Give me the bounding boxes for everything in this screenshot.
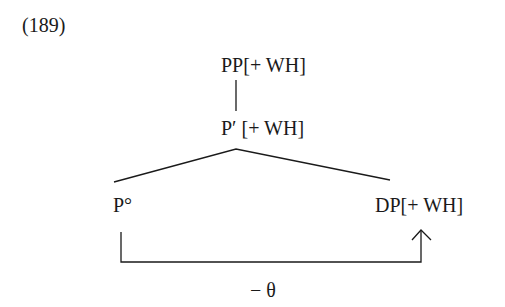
theta-bracket [121, 231, 421, 262]
branch-pbar-to-children [114, 149, 390, 182]
tree-branches [0, 0, 505, 307]
